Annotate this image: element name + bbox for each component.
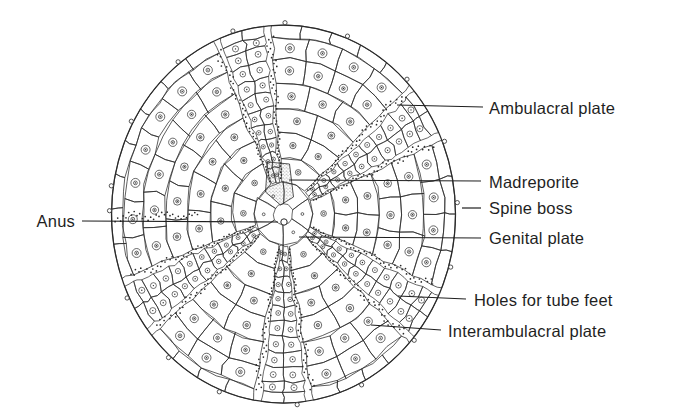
spine-boss-label: Spine boss [489, 199, 573, 217]
genital-plate-label: Genital plate [489, 229, 584, 247]
interambulacral-plate-label: Interambulacral plate [448, 322, 606, 340]
holes-for-tube-feet-leader-line [398, 296, 466, 299]
urchin-test-drawing [107, 21, 459, 407]
madreporite-shape [266, 162, 294, 205]
anus-circle [281, 219, 287, 225]
apical-genital-plates [254, 162, 313, 245]
diagram-canvas: Ambulacral plate Madreporite Spine boss … [0, 0, 674, 419]
interambulacral-plates [112, 25, 456, 400]
ambulacral-plate-label: Ambulacral plate [489, 99, 615, 117]
sea-urchin-test-diagram: Ambulacral plate Madreporite Spine boss … [0, 0, 674, 419]
interambulacral-plate-leader-line [371, 325, 441, 330]
tube-feet-pore-dots [114, 35, 434, 390]
anus-label: Anus [37, 212, 75, 230]
holes-for-tube-feet-label: Holes for tube feet [474, 291, 613, 309]
madreporite-label: Madreporite [489, 173, 579, 191]
